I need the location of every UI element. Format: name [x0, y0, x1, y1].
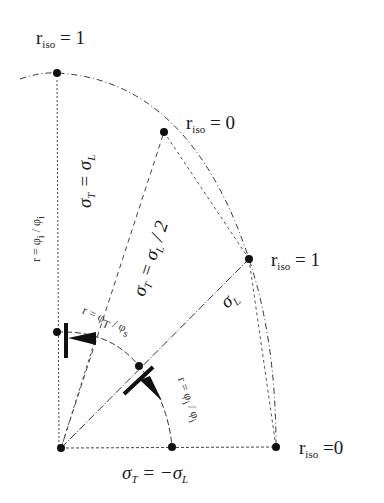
arrow-right-icon: [68, 332, 96, 345]
label-right-riso-1: riso = 1: [271, 249, 320, 272]
diagonal-line: [61, 259, 249, 448]
points: [53, 69, 280, 452]
label-top-riso-1: riso = 1: [36, 27, 85, 50]
upper-to-right: [164, 132, 249, 259]
vertical-axis: [57, 80, 59, 446]
label-bottom-sigma-eq: σT = −σL: [122, 462, 188, 485]
right-down-line: [249, 259, 276, 447]
label-bottom-riso-0: riso =0: [299, 437, 343, 460]
label-sigma-t-eq-sigma-l: σT = σL: [74, 155, 97, 208]
label-upper-riso-0: riso = 0: [186, 112, 235, 135]
label-left-vertical-ratio: r = φi / φi: [29, 216, 46, 262]
arrow-down-right-icon: [140, 376, 162, 401]
bar-vertical: [64, 323, 68, 358]
stress-state-diagram: [0, 0, 384, 503]
